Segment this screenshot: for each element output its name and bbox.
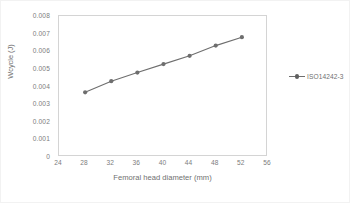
y-tick-label: 0.003 xyxy=(33,100,50,107)
x-tick-label: 28 xyxy=(80,159,88,166)
x-tick-label: 40 xyxy=(159,159,167,166)
x-tick-label: 32 xyxy=(106,159,114,166)
x-tick-label: 52 xyxy=(237,159,245,166)
legend-line-marker-icon xyxy=(289,73,305,80)
data-point-marker xyxy=(109,79,113,83)
data-point-marker xyxy=(83,90,87,94)
y-axis-title: Wcycle (J) xyxy=(6,22,15,102)
y-tick-label: 0.007 xyxy=(33,29,50,36)
x-axis-tick-labels: 242832364044485256 xyxy=(58,159,267,171)
x-axis-title: Femoral head diameter (mm) xyxy=(58,173,267,182)
y-tick-label: 0.001 xyxy=(33,135,50,142)
chart-figure: 00.0010.0020.0030.0040.0050.0060.0070.00… xyxy=(0,0,350,203)
x-tick-label: 24 xyxy=(54,159,62,166)
plot-area xyxy=(58,15,267,156)
y-tick-label: 0.005 xyxy=(33,64,50,71)
y-tick-label: 0.006 xyxy=(33,47,50,54)
data-point-marker xyxy=(135,70,139,74)
y-tick-label: 0.008 xyxy=(33,12,50,19)
x-tick-label: 48 xyxy=(211,159,219,166)
y-tick-label: 0.004 xyxy=(33,82,50,89)
y-tick-label: 0.002 xyxy=(33,117,50,124)
x-tick-label: 44 xyxy=(185,159,193,166)
legend-entry[interactable]: ISO14242-3 xyxy=(289,73,344,80)
series-plot xyxy=(59,16,268,157)
data-point-marker xyxy=(161,62,165,66)
data-point-marker xyxy=(240,35,244,39)
data-point-marker xyxy=(188,54,192,58)
chart-legend: ISO14242-3 xyxy=(289,73,344,80)
legend-label: ISO14242-3 xyxy=(307,73,344,80)
x-tick-label: 56 xyxy=(263,159,271,166)
x-tick-label: 36 xyxy=(133,159,141,166)
data-point-marker xyxy=(214,44,218,48)
y-tick-label: 0 xyxy=(46,153,50,160)
